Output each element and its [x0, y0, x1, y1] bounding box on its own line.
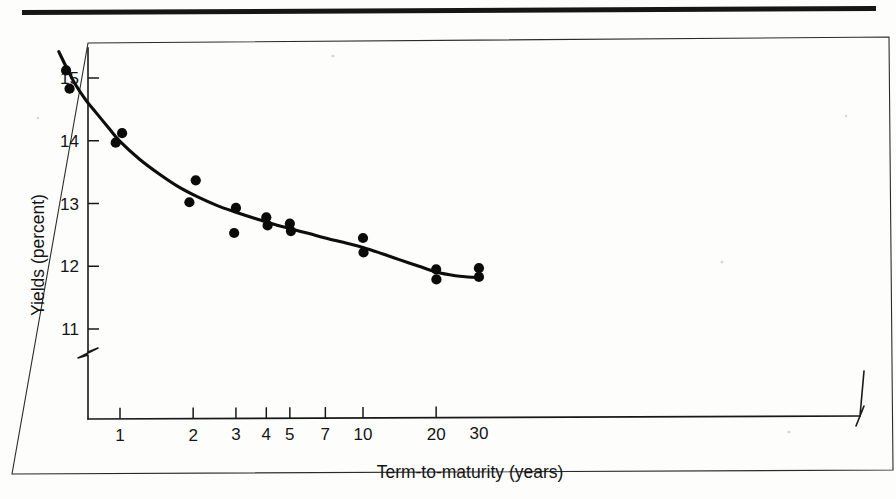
data-point	[111, 138, 121, 148]
data-point	[117, 128, 127, 138]
data-point	[191, 175, 201, 185]
data-point	[358, 233, 368, 243]
data-point	[474, 272, 484, 282]
data-point	[61, 65, 71, 75]
x-tick-label: 5	[285, 425, 294, 444]
data-point	[286, 226, 296, 236]
y-tick-label: 12	[60, 257, 79, 276]
y-tick-label: 14	[60, 132, 79, 151]
x-tick-label: 7	[321, 425, 330, 444]
x-axis-title: Term-to-maturity (years)	[377, 462, 564, 482]
x-tick-label: 20	[427, 425, 446, 444]
data-point	[231, 203, 241, 213]
x-tick-label: 4	[262, 425, 271, 444]
x-tick-label: 1	[115, 426, 124, 445]
y-tick-label: 13	[60, 195, 79, 214]
x-tick-label: 3	[231, 425, 240, 444]
data-point	[263, 220, 273, 230]
data-point	[431, 264, 441, 274]
data-point	[358, 247, 368, 257]
x-tick-label: 2	[188, 426, 197, 445]
y-tick-label: 11	[61, 320, 79, 339]
data-point	[474, 263, 484, 273]
yield-curve-figure: 1112131415123457102030 Yields (percent) …	[0, 0, 896, 499]
data-point	[229, 228, 239, 238]
data-point	[184, 197, 194, 207]
y-axis-title: Yields (percent)	[28, 194, 48, 316]
x-tick-label: 10	[354, 425, 373, 444]
data-point	[64, 84, 74, 94]
figure-container: 1112131415123457102030 Yields (percent) …	[0, 0, 896, 499]
data-point	[431, 274, 441, 284]
figure-background	[0, 0, 896, 499]
x-tick-label: 30	[469, 424, 488, 443]
